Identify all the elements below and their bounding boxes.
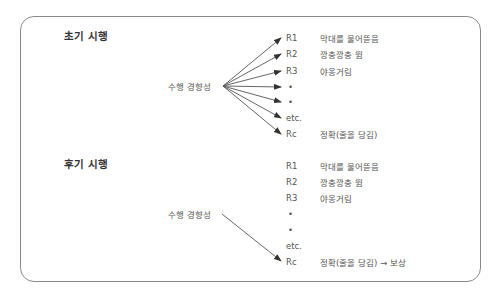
arrow-icon	[223, 86, 281, 134]
arrows-layer	[0, 0, 503, 295]
arrow-icon	[222, 214, 281, 261]
early-arrows	[223, 38, 281, 134]
arrow-icon	[223, 86, 281, 87]
arrow-icon	[223, 86, 281, 118]
arrow-icon	[223, 86, 281, 102]
arrow-icon	[223, 54, 281, 86]
late-arrow	[222, 214, 281, 261]
